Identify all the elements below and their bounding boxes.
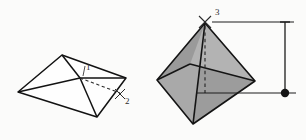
label-1: 1 [86, 63, 91, 72]
dimension-bottom-dot [281, 89, 289, 97]
label-3: 3 [215, 8, 220, 17]
pyramid-shape [157, 16, 255, 124]
figure-canvas [0, 0, 306, 140]
vertex-2-tick-mark [115, 89, 125, 99]
octahedron-shape [18, 55, 126, 117]
label-2: 2 [125, 97, 130, 106]
geometry-figure: 1 2 3 [0, 0, 306, 140]
